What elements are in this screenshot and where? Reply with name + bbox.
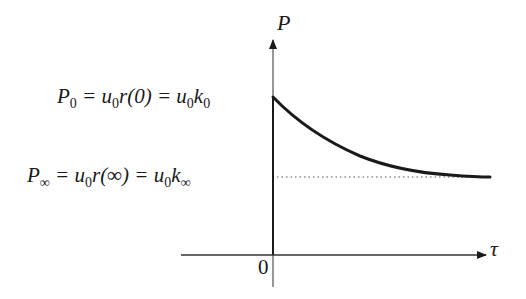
origin-label: 0	[258, 255, 269, 280]
asymptote-value-label: P∞ = u0r(∞) = u0k∞	[27, 163, 191, 191]
decay-curve	[273, 97, 490, 177]
initial-value-label: P0 = u0r(0) = u0k0	[57, 84, 210, 112]
y-axis-label: P	[277, 10, 290, 36]
x-axis-label: τ	[490, 236, 498, 262]
